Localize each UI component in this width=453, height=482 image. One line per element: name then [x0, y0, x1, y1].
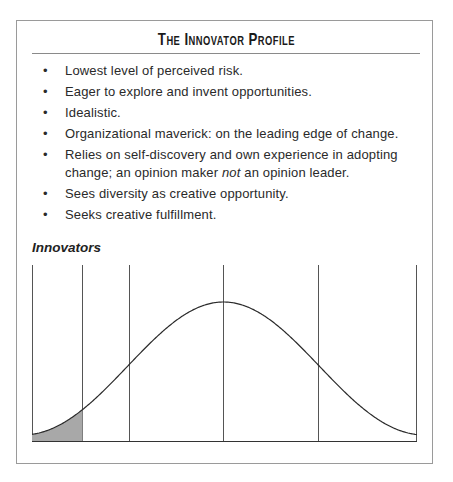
segment-divider-lines	[33, 265, 417, 441]
innovators-shaded-area	[32, 410, 83, 441]
bell-curve	[32, 302, 417, 435]
adoption-bell-curve-chart	[0, 0, 453, 482]
